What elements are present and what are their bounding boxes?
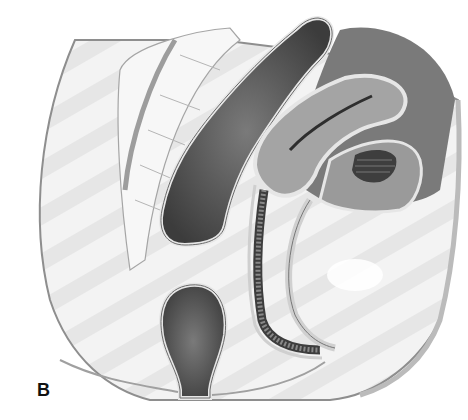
anatomy-drawing (0, 0, 468, 420)
panel-label: B (37, 380, 50, 401)
pelvis-illustration (0, 0, 468, 420)
pubic-bone (327, 259, 383, 291)
